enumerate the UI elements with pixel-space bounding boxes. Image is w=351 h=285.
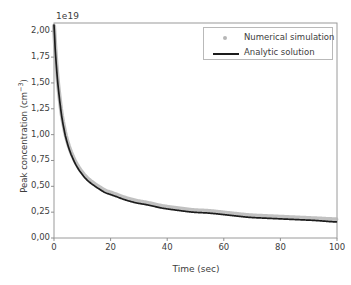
chart-figure: 1e19 Peak concentration (cm−3) Time (sec… [0, 0, 351, 285]
legend-label: Numerical simulation [244, 32, 334, 42]
legend: Numerical simulation Analytic solution [203, 27, 333, 60]
legend-marker-line-icon [210, 45, 240, 61]
legend-item-numerical-simulation: Numerical simulation [204, 30, 334, 46]
legend-marker-dot-icon [210, 30, 240, 46]
legend-label: Analytic solution [244, 47, 315, 57]
legend-item-analytic-solution: Analytic solution [204, 45, 334, 61]
